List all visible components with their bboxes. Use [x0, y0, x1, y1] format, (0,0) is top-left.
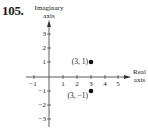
y-tick-label: 1 [36, 59, 46, 66]
x-tick-label: 1 [58, 81, 68, 88]
point-label-3-neg1: (3, −1) [58, 92, 88, 99]
x-tick-label: −1 [28, 81, 38, 88]
point-3-1 [89, 60, 94, 65]
point-label-3-1: (3, 1) [64, 58, 88, 65]
y-tick-label: 2 [36, 45, 46, 52]
x-axis-arrow-icon [124, 75, 131, 79]
x-tick-label: 2 [72, 81, 82, 88]
y-tick-label: −2 [34, 102, 46, 109]
y-tick-label: −1 [34, 88, 46, 95]
y-axis-arrow-icon [47, 20, 51, 27]
y-tick-label: 3 [36, 31, 46, 38]
x-tick-label: 3 [86, 81, 96, 88]
x-tick-label: 5 [113, 81, 123, 88]
x-tick-label: 4 [100, 81, 110, 88]
y-tick-label: −3 [34, 116, 46, 123]
point-3-neg1 [89, 89, 94, 94]
